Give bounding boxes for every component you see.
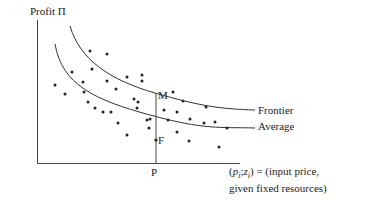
data-point (226, 127, 229, 130)
data-point (64, 93, 67, 96)
data-point (106, 80, 109, 83)
data-point (163, 109, 166, 112)
x-axis-label-line2: given fixed resources) (229, 182, 327, 195)
data-point (203, 122, 206, 125)
data-point (54, 84, 57, 87)
scatter-points (54, 50, 229, 149)
data-point (133, 98, 136, 101)
data-point (176, 131, 179, 134)
data-point (149, 118, 152, 121)
data-point (91, 68, 94, 71)
data-point (214, 121, 217, 124)
point-p-label: P (151, 166, 157, 178)
data-point (89, 50, 92, 53)
data-point (115, 88, 118, 91)
data-point (106, 53, 109, 56)
average-curve (55, 44, 255, 128)
average-label: Average (258, 120, 294, 132)
data-point (172, 91, 175, 94)
point-f-label: F (158, 134, 164, 146)
data-point (71, 71, 74, 74)
data-point (146, 119, 149, 122)
data-point (137, 101, 140, 104)
data-point (110, 111, 113, 114)
data-point (205, 106, 208, 109)
data-point (82, 81, 85, 84)
data-point (141, 74, 144, 77)
data-point (126, 134, 129, 137)
data-point (167, 119, 170, 122)
y-axis-label: Profit Π (30, 5, 66, 17)
x-axis-label-line1: (pi;zi) = (input price, (229, 165, 327, 182)
frontier-label: Frontier (258, 104, 293, 116)
data-point (136, 107, 139, 110)
data-point (188, 140, 191, 143)
data-point (83, 91, 86, 94)
data-point (141, 80, 144, 83)
data-point (148, 127, 151, 130)
data-point (189, 118, 192, 121)
x-axis-label: (pi;zi) = (input price, given fixed reso… (229, 165, 327, 195)
data-point (87, 101, 90, 104)
data-point (176, 111, 179, 114)
data-point (126, 76, 129, 79)
data-point (182, 100, 185, 103)
data-point (218, 146, 221, 149)
data-point (94, 107, 97, 110)
data-point (117, 122, 120, 125)
point-m-label: M (158, 89, 168, 101)
data-point (102, 111, 105, 114)
